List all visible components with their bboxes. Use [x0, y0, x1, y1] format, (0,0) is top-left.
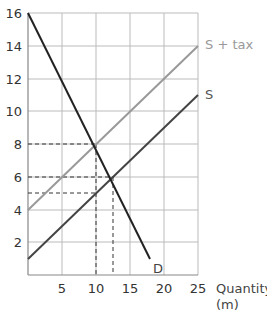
y-tick-labels: 2 4 6 8 10 12 14 16	[5, 6, 22, 250]
svg-text:2: 2	[14, 235, 22, 250]
x-tick-labels: 5 10 15 20 25	[58, 281, 206, 296]
svg-text:20: 20	[156, 281, 173, 296]
svg-text:4: 4	[14, 203, 22, 218]
svg-text:10: 10	[5, 104, 22, 119]
svg-text:12: 12	[5, 72, 22, 87]
svg-text:25: 25	[190, 281, 207, 296]
svg-text:14: 14	[5, 39, 22, 54]
svg-text:5: 5	[58, 281, 66, 296]
svg-text:15: 15	[122, 281, 139, 296]
svg-text:16: 16	[5, 6, 22, 21]
x-axis-label: Quantity	[216, 281, 267, 296]
label-s: S	[205, 87, 213, 102]
x-axis-label-unit: (m)	[216, 297, 239, 312]
label-d: D	[153, 261, 163, 276]
supply-demand-tax-chart: 2 4 6 8 10 12 14 16 5 10 15 20 25 S + ta…	[0, 0, 267, 314]
label-s-tax: S + tax	[205, 37, 253, 52]
svg-text:8: 8	[14, 137, 22, 152]
svg-text:10: 10	[88, 281, 105, 296]
svg-text:6: 6	[14, 170, 22, 185]
demand-line	[28, 13, 150, 259]
